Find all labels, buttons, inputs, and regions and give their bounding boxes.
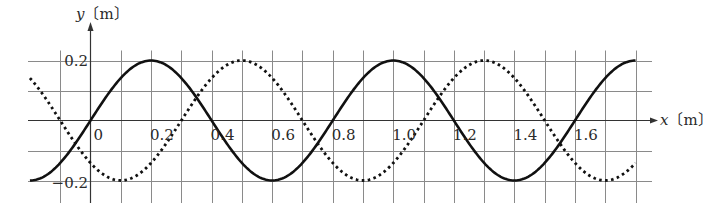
wave-chart: 00.20.40.60.81.01.21.41.60.2−0.2 y〔m〕 x〔… <box>0 0 721 211</box>
x-tick-label: 0.2 <box>150 126 174 144</box>
x-tick-label: 1.6 <box>574 126 598 144</box>
y-axis-arrow-icon <box>88 22 94 31</box>
x-tick-label: 0.6 <box>271 126 295 144</box>
x-tick-label: 1.2 <box>453 126 477 144</box>
axes <box>28 22 658 203</box>
x-axis-arrow-icon <box>650 118 658 124</box>
x-tick-label: 0.4 <box>211 126 235 144</box>
x-axis-label: x〔m〕 <box>660 111 713 129</box>
y-tick-label: −0.2 <box>52 174 88 192</box>
y-tick-label: 0.2 <box>64 52 88 70</box>
x-tick-label: 1.4 <box>513 126 537 144</box>
x-tick-label: 1.0 <box>392 126 416 144</box>
tick-labels: 00.20.40.60.81.01.21.41.60.2−0.2 <box>52 52 598 192</box>
x-tick-label: 0.8 <box>332 126 356 144</box>
y-axis-label: y〔m〕 <box>75 5 129 23</box>
x-tick-label: 0 <box>94 126 104 144</box>
